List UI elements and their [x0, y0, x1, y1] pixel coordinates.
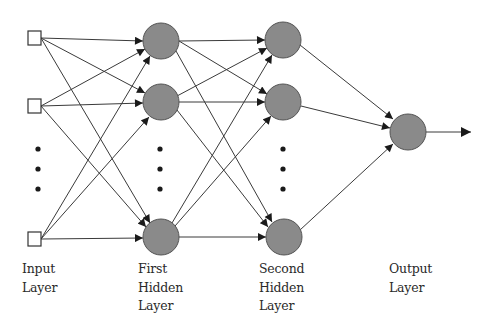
input-node	[28, 99, 41, 113]
neuron	[143, 23, 179, 59]
input-node	[28, 232, 41, 246]
neuron	[266, 219, 302, 255]
input-layer-nodes	[28, 31, 41, 246]
edges-input-to-hidden1	[41, 38, 150, 239]
input-node	[28, 31, 41, 45]
label-line: Hidden	[259, 279, 304, 298]
neuron	[143, 219, 179, 255]
label-line: Layer	[22, 279, 57, 298]
label-line: Output	[389, 260, 432, 279]
output-neuron	[390, 114, 426, 150]
label-line: Hidden	[138, 279, 183, 298]
neuron	[265, 84, 301, 120]
hidden2-layer-label: Second Hidden Layer	[259, 260, 304, 316]
label-line: Second	[259, 260, 304, 279]
label-line: Layer	[259, 297, 304, 316]
neuron	[143, 84, 179, 120]
output-layer-label: Output Layer	[389, 260, 432, 297]
input-layer-label: Input Layer	[22, 260, 57, 297]
edges-hidden2-to-output	[300, 45, 393, 230]
label-line: Layer	[389, 279, 432, 298]
neuron	[265, 22, 301, 58]
output-layer-nodes	[390, 114, 426, 150]
label-line: Layer	[138, 297, 183, 316]
label-line: Input	[22, 260, 57, 279]
label-line: First	[138, 260, 183, 279]
edges-hidden1-to-hidden2	[172, 40, 272, 237]
hidden1-layer-label: First Hidden Layer	[138, 260, 183, 316]
